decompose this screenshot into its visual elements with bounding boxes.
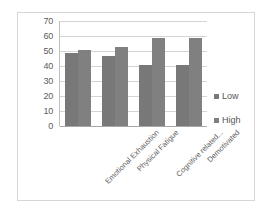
y-axis-tick-label: 60 [43,31,53,41]
bar-low [102,56,115,127]
axis-baseline [60,126,207,127]
legend-swatch-icon [214,94,219,99]
legend-label: High [222,115,241,125]
legend-label: Low [222,91,239,101]
y-axis-tick-label: 0 [48,121,53,131]
plot-area [59,21,207,126]
bar-group [176,21,202,126]
bar-low [139,65,152,127]
y-axis-tick-label: 20 [43,91,53,101]
legend-item: Low [214,91,258,101]
y-axis: 706050403020100 [18,21,56,126]
chart-frame: 706050403020100 Emotional ExhaustionPhys… [17,12,255,201]
chart-legend: LowHigh [214,91,258,139]
bar-low [65,53,78,127]
y-axis-tick-label: 70 [43,16,53,26]
x-axis-labels: Emotional ExhaustionPhysical FatigueCogn… [59,128,207,198]
bar-group [139,21,165,126]
bar-groups [60,21,207,126]
bar-high [78,50,91,127]
bar-high [115,47,128,127]
legend-swatch-icon [214,118,219,123]
bar-high [152,38,165,127]
bar-low [176,65,189,127]
y-axis-tick-label: 10 [43,106,53,116]
legend-item: High [214,115,258,125]
bar-group [65,21,91,126]
y-axis-tick-label: 40 [43,61,53,71]
y-axis-tick-label: 30 [43,76,53,86]
y-axis-tick-label: 50 [43,46,53,56]
bar-group [102,21,128,126]
bar-high [189,38,202,127]
